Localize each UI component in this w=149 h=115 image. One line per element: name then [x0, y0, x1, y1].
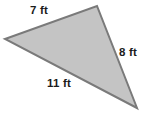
side-label-11ft: 11 ft [47, 77, 71, 90]
triangle-figure: 7 ft 8 ft 11 ft [0, 0, 149, 115]
side-label-7ft: 7 ft [30, 4, 48, 17]
side-label-8ft: 8 ft [119, 46, 137, 59]
triangle-polygon [5, 6, 137, 108]
